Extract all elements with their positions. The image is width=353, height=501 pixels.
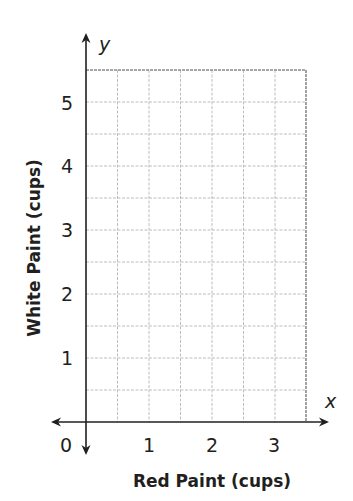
x-tick-0: 0 [60, 434, 72, 456]
y-axis-title: White Paint (cups) [24, 159, 44, 337]
coordinate-plane: y x 5 4 3 2 1 0 1 2 3 Red Paint (cups) W… [0, 0, 353, 501]
grid [86, 70, 306, 422]
y-variable-label: y [98, 33, 111, 55]
x-variable-label: x [324, 390, 337, 412]
y-tick-5: 5 [61, 92, 73, 114]
x-axis-title: Red Paint (cups) [133, 471, 291, 491]
x-tick-2: 2 [206, 434, 218, 456]
x-tick-3: 3 [268, 434, 280, 456]
y-tick-2: 2 [61, 283, 73, 305]
y-tick-3: 3 [61, 219, 73, 241]
y-tick-4: 4 [61, 155, 73, 177]
grid-border [86, 70, 306, 422]
x-tick-1: 1 [143, 434, 155, 456]
y-tick-1: 1 [61, 347, 73, 369]
